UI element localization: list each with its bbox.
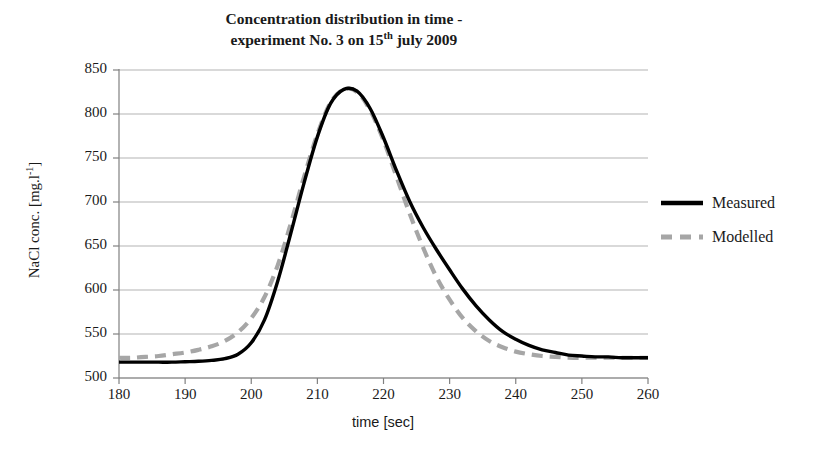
legend-label: Modelled [712,228,773,246]
chart-legend: MeasuredModelled [660,186,820,254]
chart-figure: Concentration distribution in time - exp… [0,0,824,461]
legend-label: Measured [712,194,775,212]
legend-line-sample [660,230,704,244]
series-line-measured [119,88,648,362]
legend-item-modelled[interactable]: Modelled [660,220,820,254]
legend-item-measured[interactable]: Measured [660,186,820,220]
series-line-modelled [119,88,648,357]
legend-line-sample [660,196,704,210]
